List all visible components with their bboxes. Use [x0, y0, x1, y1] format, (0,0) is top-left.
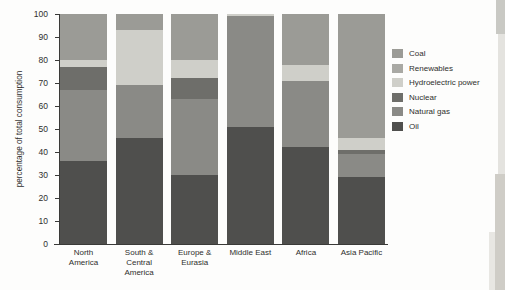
- x-axis-labels: North AmericaSouth & Central AmericaEuro…: [60, 248, 385, 278]
- y-axis-title: percentage of total consumption: [14, 14, 26, 244]
- bar-segment-coal[interactable]: [171, 14, 218, 60]
- legend-label: Hydroelectric power: [409, 78, 480, 87]
- legend-swatch-icon: [392, 122, 403, 131]
- legend-item[interactable]: Natural gas: [392, 107, 480, 116]
- bar-segment-natural-gas[interactable]: [171, 99, 218, 175]
- stacked-bar[interactable]: [338, 14, 385, 244]
- legend-swatch-icon: [392, 107, 403, 116]
- bar-segment-nuclear[interactable]: [171, 78, 218, 99]
- x-axis-line: [54, 244, 388, 245]
- bar-segment-natural-gas[interactable]: [338, 154, 385, 177]
- x-axis-label: Africa: [282, 248, 329, 278]
- bar-segment-oil[interactable]: [171, 175, 218, 244]
- y-tick-label: 40: [39, 147, 48, 157]
- bar-segment-coal[interactable]: [116, 14, 163, 30]
- bar-column[interactable]: [227, 14, 274, 244]
- y-tick-label: 90: [39, 32, 48, 42]
- bar-segment-nuclear[interactable]: [60, 67, 107, 90]
- bar-column[interactable]: [60, 14, 107, 244]
- page-edge-decoration: [496, 0, 505, 34]
- y-tick-label: 70: [39, 78, 48, 88]
- bar-segment-oil[interactable]: [338, 177, 385, 244]
- legend-label: Coal: [409, 49, 425, 58]
- x-axis-label: Asia Pacific: [338, 248, 385, 278]
- legend-swatch-icon: [392, 49, 403, 58]
- bar-segment-oil[interactable]: [60, 161, 107, 244]
- y-tick-label: 60: [39, 101, 48, 111]
- stacked-bar[interactable]: [60, 14, 107, 244]
- legend-label: Natural gas: [409, 107, 450, 116]
- plot-area: 0102030405060708090100: [60, 14, 385, 244]
- bar-segment-hydroelectric-power[interactable]: [116, 30, 163, 85]
- x-axis-label: Europe & Eurasia: [171, 248, 218, 278]
- legend-swatch-icon: [392, 93, 403, 102]
- y-tick: 0: [55, 244, 60, 245]
- page-edge-decoration: [495, 174, 505, 290]
- legend-label: Oil: [409, 122, 419, 131]
- bar-column[interactable]: [338, 14, 385, 244]
- legend-swatch-icon: [392, 64, 403, 73]
- bar-segment-coal[interactable]: [60, 14, 107, 60]
- y-tick-label: 20: [39, 193, 48, 203]
- y-tick-label: 0: [43, 239, 48, 249]
- stacked-bar[interactable]: [227, 14, 274, 244]
- y-tick-label: 30: [39, 170, 48, 180]
- bar-segment-hydroelectric-power[interactable]: [338, 138, 385, 150]
- y-tick-label: 50: [39, 124, 48, 134]
- x-axis-label: North America: [60, 248, 107, 278]
- stacked-bars: [60, 14, 385, 244]
- bar-segment-natural-gas[interactable]: [282, 81, 329, 148]
- legend-label: Nuclear: [409, 93, 437, 102]
- legend-item[interactable]: Coal: [392, 49, 480, 58]
- stacked-bar[interactable]: [171, 14, 218, 244]
- chart-legend: CoalRenewablesHydroelectric powerNuclear…: [392, 49, 480, 131]
- legend-swatch-icon: [392, 78, 403, 87]
- y-tick-label: 100: [34, 9, 48, 19]
- bar-segment-natural-gas[interactable]: [116, 85, 163, 138]
- page-edge-decoration: [498, 34, 505, 174]
- legend-item[interactable]: Renewables: [392, 64, 480, 73]
- bar-segment-hydroelectric-power[interactable]: [60, 60, 107, 67]
- x-axis-label: South & Central America: [116, 248, 163, 278]
- x-axis-label: Middle East: [227, 248, 274, 278]
- bar-segment-oil[interactable]: [282, 147, 329, 244]
- bar-column[interactable]: [282, 14, 329, 244]
- legend-label: Renewables: [409, 64, 453, 73]
- bar-segment-oil[interactable]: [227, 127, 274, 244]
- bar-segment-hydroelectric-power[interactable]: [282, 65, 329, 81]
- bar-column[interactable]: [171, 14, 218, 244]
- bar-segment-coal[interactable]: [282, 14, 329, 65]
- bar-segment-natural-gas[interactable]: [227, 16, 274, 126]
- bar-segment-oil[interactable]: [116, 138, 163, 244]
- legend-item[interactable]: Nuclear: [392, 93, 480, 102]
- legend-item[interactable]: Hydroelectric power: [392, 78, 480, 87]
- bar-segment-natural-gas[interactable]: [60, 90, 107, 161]
- stacked-bar[interactable]: [282, 14, 329, 244]
- stacked-bar[interactable]: [116, 14, 163, 244]
- y-tick-label: 80: [39, 55, 48, 65]
- y-tick-label: 10: [39, 216, 48, 226]
- legend-item[interactable]: Oil: [392, 122, 480, 131]
- bar-segment-hydroelectric-power[interactable]: [171, 60, 218, 78]
- bar-column[interactable]: [116, 14, 163, 244]
- page-edge-decoration: [489, 232, 495, 290]
- chart-page: percentage of total consumption 01020304…: [0, 0, 505, 290]
- bar-segment-coal[interactable]: [338, 14, 385, 138]
